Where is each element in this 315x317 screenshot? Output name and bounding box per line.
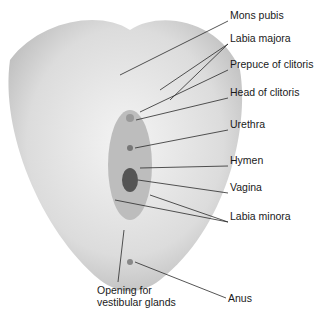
label-head-of-clitoris: Head of clitoris — [230, 86, 299, 98]
label-labia-majora: Labia majora — [230, 32, 291, 44]
label-urethra: Urethra — [230, 118, 265, 130]
label-mons-pubis: Mons pubis — [230, 9, 284, 21]
vestibule-shape — [108, 110, 152, 220]
label-hymen: Hymen — [230, 154, 263, 166]
clitoris-shape — [126, 114, 134, 122]
label-vagina: Vagina — [230, 181, 262, 193]
vaginal-opening-shape — [122, 168, 138, 192]
label-opening-for-vestibular-glands: Opening for vestibular glands — [97, 284, 187, 308]
illustration — [0, 0, 315, 317]
label-labia-minora: Labia minora — [230, 210, 291, 222]
urethra-shape — [127, 145, 133, 151]
label-prepuce-of-clitoris: Prepuce of clitoris — [230, 58, 313, 70]
label-anus: Anus — [228, 292, 252, 304]
anus-shape — [127, 259, 133, 265]
anatomy-diagram: Mons pubis Labia majora Prepuce of clito… — [0, 0, 315, 317]
